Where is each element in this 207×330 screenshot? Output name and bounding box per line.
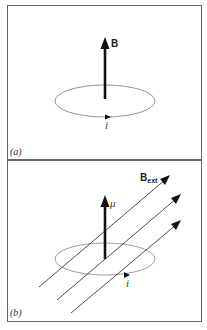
b-ext-main: B [140, 172, 147, 183]
b-field-label: B [111, 38, 118, 49]
panel-b: μ Bext i (b) [8, 161, 202, 322]
b-ext-sub: ext [147, 177, 158, 184]
mu-label: μ [109, 197, 116, 209]
panel-a: B i (a) [8, 6, 202, 160]
panel-label-a: (a) [10, 146, 22, 158]
panel-label-b: (b) [10, 307, 22, 319]
current-label-b: i [126, 277, 129, 289]
figure: B i (a) μ Bext i (b) [0, 0, 207, 330]
current-label-a: i [105, 119, 108, 131]
